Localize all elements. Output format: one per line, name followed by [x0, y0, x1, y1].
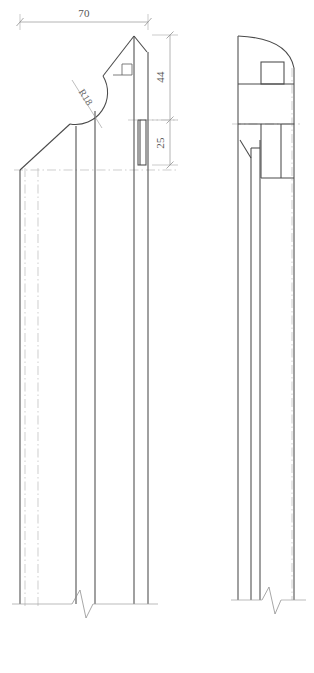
- dim-value-width: 70: [78, 7, 90, 19]
- front-view-center-lines: [14, 120, 178, 608]
- side-view-outline: [238, 36, 294, 600]
- front-apex-notch-marker: [113, 64, 132, 75]
- dim-value-upper-height: 44: [154, 71, 166, 83]
- front-chamfer-45: [20, 124, 70, 170]
- radius-callout-r18: R18: [72, 80, 102, 128]
- front-break-zigzag: [72, 590, 93, 618]
- side-view-center-lines: [232, 68, 300, 600]
- technical-drawing-canvas: 70 44 25: [0, 0, 314, 673]
- side-top-arc: [238, 36, 294, 68]
- dimension-upper-height: 44: [152, 32, 178, 124]
- side-break-zigzag: [262, 587, 281, 614]
- front-groove-rectangle: [138, 120, 146, 165]
- radius-label-text: R18: [77, 87, 96, 107]
- dimension-lower-height: 25: [152, 120, 178, 169]
- dimension-overall-width: 70: [17, 7, 152, 30]
- front-apex-right-slope: [134, 36, 147, 52]
- front-apex-slope: [103, 36, 134, 76]
- groove-rect: [138, 120, 146, 165]
- front-view-outline: [20, 36, 148, 604]
- front-view-break: [12, 590, 158, 618]
- side-view-break: [231, 587, 306, 614]
- side-mortise-pocket: [261, 62, 284, 84]
- cad-drawing-svg: 70 44 25: [0, 0, 314, 673]
- side-diagonal-transition: [240, 140, 251, 158]
- dim-value-lower-height: 25: [154, 137, 166, 149]
